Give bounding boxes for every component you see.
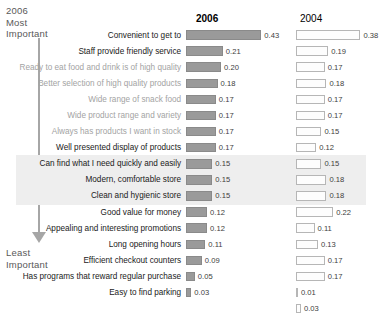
bar-track-2004: 0.18	[296, 75, 382, 91]
row-label: Always has products I want in stock	[0, 127, 186, 136]
chart-row: Convenient to get to0.430.38	[0, 27, 382, 43]
bar-value-2004: 0.17	[328, 63, 343, 72]
bar-value-2004: 0.15	[324, 127, 339, 136]
bar-track-2004: 0.17	[296, 107, 382, 123]
chart-row: Efficient checkout counters0.090.17	[0, 252, 382, 268]
chart-row: Better selection of high quality product…	[0, 75, 382, 91]
bar-track-2004: 0.15	[296, 156, 382, 172]
bar-2004	[296, 95, 325, 105]
bar-value-2006: 0.20	[224, 63, 239, 72]
chart-row: Easy to find parking0.030.01	[0, 285, 382, 301]
bar-value-2004: 0.17	[328, 111, 343, 120]
bar-track-2004: 0.17	[296, 91, 382, 107]
bar-2006	[186, 207, 207, 217]
row-label: Staff provide friendly service	[0, 47, 186, 56]
bar-track-2004: 0.11	[296, 220, 382, 236]
chart-row: Can find what I need quickly and easily0…	[0, 156, 382, 172]
bar-2004	[296, 207, 333, 217]
chart-row: Has programs that reward regular purchas…	[0, 268, 382, 284]
bar-value-2006: 0.11	[208, 240, 222, 249]
bar-track-2006: 0.21	[186, 43, 288, 59]
bar-track-2006: 0.15	[186, 188, 288, 204]
bar-2006	[186, 240, 205, 250]
bar-2004	[296, 127, 322, 137]
bar-2006	[186, 111, 216, 121]
bar-track-2006: 0.43	[186, 27, 288, 43]
bar-track-2006: 0.15	[186, 156, 288, 172]
bar-track-2006: 0.05	[186, 268, 288, 284]
chart-rows: Convenient to get to0.430.38Staff provid…	[0, 27, 382, 317]
bar-2004	[296, 223, 315, 233]
bar-2006	[186, 175, 212, 185]
bar-value-2006: 0.12	[210, 208, 225, 217]
bar-track-2004: 0.18	[296, 172, 382, 188]
bar-track-2004: 0.17	[296, 252, 382, 268]
bar-2004	[296, 46, 328, 56]
bar-track-2006: 0.15	[186, 172, 288, 188]
chart-row: Always has products I want in stock0.170…	[0, 124, 382, 140]
bar-track-2004: 0.17	[296, 59, 382, 75]
row-label: Wide range of snack food	[0, 95, 186, 104]
bar-2006	[186, 95, 216, 105]
bar-2006	[186, 272, 195, 282]
bar-2006	[186, 256, 202, 266]
row-label: Ready to eat food and drink is of high q…	[0, 63, 186, 72]
bar-2004	[296, 79, 327, 89]
row-label: Can find what I need quickly and easily	[0, 159, 186, 168]
bar-track-2004: 0.01	[296, 285, 382, 301]
column-header-2006: 2006	[196, 13, 218, 24]
bar-value-2006: 0.15	[215, 191, 230, 200]
bar-track-2006: 0.12	[186, 220, 288, 236]
bar-value-2006: 0.18	[221, 79, 236, 88]
bar-track-2006: 0.17	[186, 107, 288, 123]
row-label: Efficient checkout counters	[0, 256, 186, 265]
row-label: Appealing and interesting promotions	[0, 224, 186, 233]
bar-value-2004: 0.13	[321, 240, 336, 249]
row-label: Has programs that reward regular purchas…	[0, 272, 186, 281]
bar-2006	[186, 30, 261, 40]
bar-value-2006: 0.43	[264, 31, 279, 40]
row-label: Easy to find parking	[0, 288, 186, 297]
row-label: Well presented display of products	[0, 143, 186, 152]
bar-value-2006: 0.21	[226, 47, 241, 56]
bar-2004	[296, 288, 298, 298]
bar-track-2006-empty	[186, 301, 288, 317]
bar-value-2004: 0.11	[318, 224, 332, 233]
chart-row: Long opening hours0.110.13	[0, 236, 382, 252]
bar-value-2006: 0.17	[219, 143, 234, 152]
chart-row: Ready to eat food and drink is of high q…	[0, 59, 382, 75]
row-label: Wide product range and variety	[0, 111, 186, 120]
bar-value-2006: 0.15	[215, 175, 230, 184]
bar-track-2006: 0.12	[186, 204, 288, 220]
bar-value-2004: 0.17	[328, 95, 343, 104]
bar-2006	[186, 288, 191, 298]
bar-track-2004: 0.15	[296, 124, 382, 140]
bar-value-2004: 0.17	[328, 256, 343, 265]
bar-value-2004: 0.18	[329, 175, 344, 184]
bar-value-2004: 0.12	[319, 143, 334, 152]
chart-row: Well presented display of products0.170.…	[0, 140, 382, 156]
bar-track-2006: 0.17	[186, 124, 288, 140]
bar-value-2006: 0.15	[215, 159, 230, 168]
bar-2004	[296, 272, 325, 282]
bar-value-2004: 0.01	[301, 288, 316, 297]
bar-value-2006: 0.17	[219, 127, 234, 136]
bar-value-2006: 0.17	[219, 95, 234, 104]
bar-2004	[296, 62, 325, 72]
chart-row: Clean and hygienic store0.150.18	[0, 188, 382, 204]
bar-2006	[186, 46, 223, 56]
row-label: Clean and hygienic store	[0, 191, 186, 200]
bar-2006	[186, 62, 221, 72]
bar-value-2006: 0.05	[198, 272, 213, 281]
bar-2004	[296, 175, 327, 185]
bar-track-2006: 0.17	[186, 140, 288, 156]
bar-track-2004-trailing: 0.03	[296, 301, 382, 317]
bar-2004	[296, 191, 327, 201]
bar-2006	[186, 223, 207, 233]
bar-2006	[186, 79, 218, 89]
bar-track-2004: 0.18	[296, 188, 382, 204]
column-header-2004: 2004	[300, 13, 322, 24]
row-label: Good value for money	[0, 208, 186, 217]
bar-track-2006: 0.17	[186, 91, 288, 107]
